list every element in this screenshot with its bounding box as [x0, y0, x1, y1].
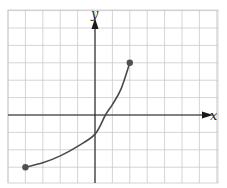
grid: [8, 10, 218, 183]
y-axis-label: y: [90, 6, 99, 21]
x-axis: x: [8, 108, 218, 123]
right-endpoint-dot: [127, 60, 133, 66]
x-axis-label: x: [210, 108, 218, 123]
function-graph: x y: [0, 0, 227, 188]
left-endpoint-dot: [22, 164, 28, 170]
y-axis: y: [90, 6, 99, 183]
